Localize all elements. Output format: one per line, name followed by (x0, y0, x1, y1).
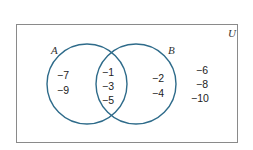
venn-circles (0, 0, 253, 150)
set-b-label: B (168, 45, 175, 56)
outside-value: −10 (191, 93, 209, 104)
outside-value: −6 (196, 65, 208, 76)
set-a-label: A (51, 45, 58, 56)
a-only-value: −9 (57, 85, 69, 96)
b-only-value: −2 (152, 73, 164, 84)
a-only-value: −7 (57, 70, 69, 81)
outside-value: −8 (196, 79, 208, 90)
intersection-value: −3 (102, 81, 114, 92)
b-only-value: −4 (152, 88, 164, 99)
universe-label: U (228, 28, 236, 39)
intersection-value: −1 (102, 67, 114, 78)
intersection-value: −5 (102, 95, 114, 106)
